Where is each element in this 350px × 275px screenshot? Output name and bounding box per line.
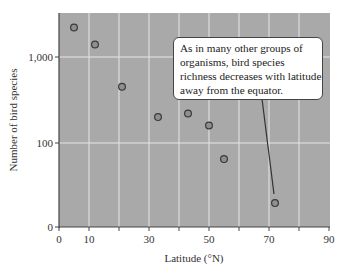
x-tick-label: 10 (84, 233, 96, 245)
annotation-callout: As in many other groups of organisms, bi… (173, 37, 323, 100)
x-tick-label: 0 (56, 233, 62, 245)
data-point (272, 200, 279, 207)
x-tick-label: 90 (324, 233, 336, 245)
x-tick-label: 30 (144, 233, 156, 245)
y-tick-label: 0 (48, 221, 54, 233)
annotation-line-2: organisms, bird species (180, 55, 316, 69)
y-tick-label: 1,000 (28, 51, 53, 63)
x-axis-title: Latitude (°N) (164, 252, 223, 265)
annotation-line-3: richness decreases with latitude (180, 69, 316, 83)
data-point (92, 41, 99, 48)
x-tick-label: 70 (264, 233, 276, 245)
data-point (119, 83, 126, 90)
annotation-line-4: away from the equator. (180, 83, 316, 97)
data-point (71, 24, 78, 31)
x-tick-label: 50 (204, 233, 216, 245)
data-point (221, 156, 228, 163)
data-point (155, 114, 162, 121)
data-point (185, 110, 192, 117)
data-point (206, 122, 213, 129)
y-axis-title: Number of bird species (7, 69, 19, 172)
y-tick-label: 100 (37, 137, 54, 149)
annotation-line-1: As in many other groups of (180, 41, 316, 55)
